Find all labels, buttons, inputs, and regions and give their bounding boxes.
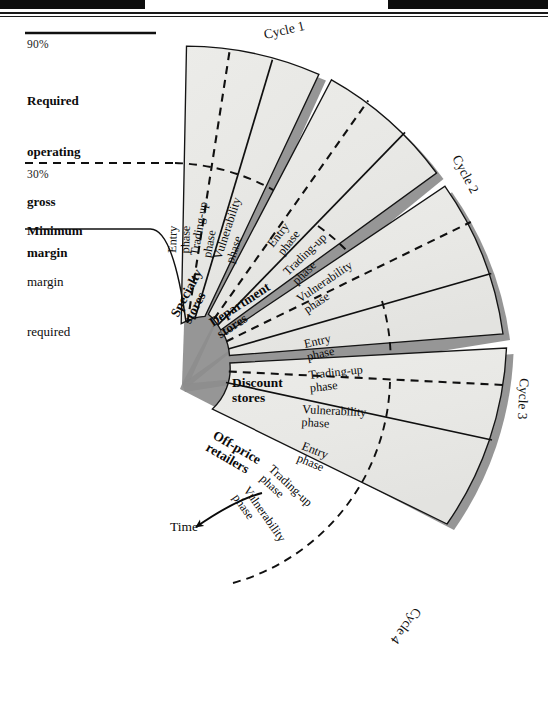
required-margin-line-2: operating — [27, 145, 80, 160]
cycle-2-label: Cycle 2 — [449, 152, 482, 195]
cycle-4-label: Cycle 4 — [388, 605, 425, 647]
cycle-1-label: Cycle 1 — [262, 18, 306, 42]
minimum-margin-line-1: Minimum — [27, 224, 83, 239]
cycle-3-label: Cycle 3 — [515, 378, 532, 420]
required-margin-percent: 90% — [27, 38, 49, 50]
minimum-margin-line-3: required — [27, 325, 83, 340]
time-axis-label: Time — [170, 519, 198, 535]
minimum-margin-caption: Minimum margin required — [27, 188, 83, 376]
store-type-offprice-label: Off-price retailers — [204, 428, 267, 481]
figure-canvas: Cycle 1 Entry phase Trading-up phase Vul… — [0, 0, 548, 707]
required-margin-line-1: Required — [27, 94, 80, 109]
minimum-margin-line-2: margin — [27, 275, 83, 290]
minimum-margin-percent: 30% — [27, 168, 49, 180]
